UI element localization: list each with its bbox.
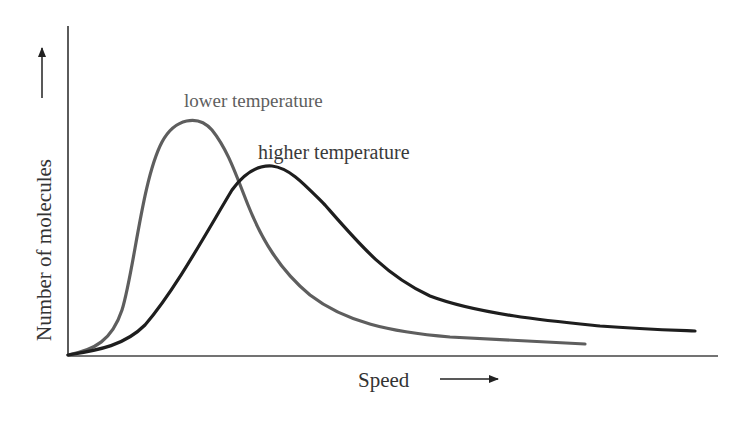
maxwell-boltzmann-chart [0, 0, 753, 421]
x-axis-label: Speed [358, 368, 409, 393]
lower-temperature-label: lower temperature [184, 90, 323, 112]
higher-temperature-label: higher temperature [258, 141, 410, 164]
y-axis-label: Number of molecules [32, 159, 57, 341]
